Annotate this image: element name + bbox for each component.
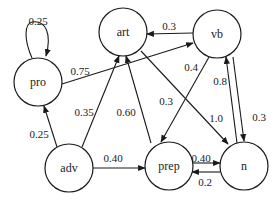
node-n: n [220, 142, 268, 190]
edge-label-vb-n: 0.3 [252, 111, 266, 123]
edge-label-n-prep: 0.2 [198, 176, 212, 188]
edge-prep-art [126, 56, 151, 143]
edge-label-n-vb: 0.8 [213, 75, 227, 87]
edge-vb-art [147, 33, 193, 34]
edge-adv-pro [44, 106, 57, 147]
edge-label-pro-vb: 0.75 [70, 65, 90, 77]
node-label: art [117, 25, 130, 39]
state-diagram: pro art vb adv prep n 0.25 0.75 0.3 0.4 … [0, 0, 279, 203]
node-pro: pro [14, 58, 62, 106]
edge-label-mid-diag: 0.3 [159, 95, 173, 107]
edge-pro-pro [26, 22, 48, 58]
edge-label-prep-n: 0.40 [191, 152, 211, 164]
node-label: vb [211, 27, 223, 41]
edge-label-art-n: 1.0 [209, 112, 223, 124]
edge-label-prep-art: 0.60 [116, 106, 136, 118]
node-art: art [99, 8, 147, 56]
edge-label-vb-art: 0.3 [162, 20, 176, 32]
node-prep: prep [145, 142, 193, 190]
node-label: pro [30, 75, 46, 89]
node-label: adv [60, 161, 77, 175]
node-label: n [241, 159, 247, 173]
edge-label-adv-pro: 0.25 [29, 128, 49, 140]
edge-label-vb-prep: 0.4 [184, 61, 198, 73]
edge-label-adv-art: 0.35 [74, 106, 94, 118]
nodes: pro art vb adv prep n [14, 8, 268, 192]
edge-label-pro-pro: 0.25 [28, 15, 48, 27]
node-label: prep [158, 159, 179, 173]
edge-n-vb [226, 57, 237, 143]
node-adv: adv [45, 144, 93, 192]
node-vb: vb [193, 10, 241, 58]
edge-label-adv-prep: 0.40 [103, 152, 123, 164]
